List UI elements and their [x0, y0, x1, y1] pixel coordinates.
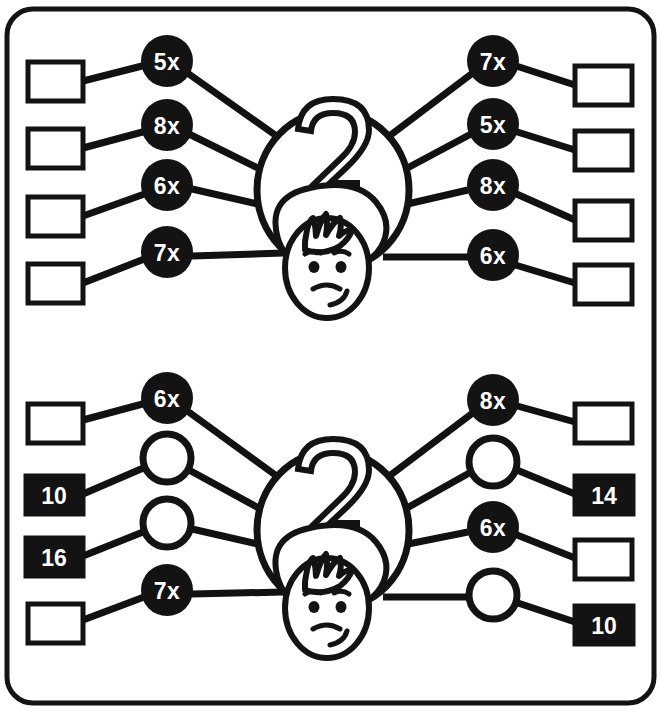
character-eye-left-bottom [309, 601, 320, 613]
connector-center-node-bottom-right-3 [403, 532, 468, 545]
node-label: 7x [154, 240, 181, 266]
connector-center-node-top-right-1 [388, 72, 474, 137]
center-figure-top: 2 [257, 99, 409, 318]
connector-box-node-bottom-left-4 [83, 594, 152, 620]
node-circle[interactable] [143, 434, 191, 482]
connector-node-center-top-left-4 [192, 253, 283, 256]
answer-box-value: 10 [591, 613, 617, 639]
answer-box-bottom-left-2[interactable]: 10 [26, 476, 83, 514]
answer-box-rect[interactable] [28, 604, 83, 643]
node-top-right-4[interactable]: 6x [467, 229, 519, 281]
character-eye-right-top [336, 261, 347, 273]
answer-box-value: 14 [591, 483, 617, 509]
center-figure-bottom: 2 [257, 439, 409, 658]
node-bottom-left-4[interactable]: 7x [141, 564, 193, 616]
answer-box-top-left-3[interactable] [28, 197, 83, 236]
node-top-right-2[interactable]: 5x [467, 98, 519, 150]
answer-box-value: 10 [41, 483, 67, 509]
node-bottom-left-2[interactable] [143, 434, 191, 482]
connector-node-center-bottom-left-2 [189, 470, 266, 512]
node-label: 7x [154, 578, 181, 604]
section-top: 2 5x 8x [28, 35, 632, 318]
answer-box-rect[interactable] [28, 404, 83, 443]
answer-box-rect[interactable] [575, 540, 632, 579]
node-top-right-3[interactable]: 8x [467, 159, 519, 211]
node-circle[interactable] [143, 499, 191, 547]
connector-node-center-bottom-left-4 [192, 592, 283, 594]
character-eyebrow-right-top [334, 251, 349, 254]
node-bottom-left-3[interactable] [143, 499, 191, 547]
connector-node-box-top-right-3 [512, 192, 575, 220]
connector-node-center-bottom-left-1 [186, 410, 278, 477]
node-bottom-right-1[interactable]: 8x [467, 374, 519, 426]
answer-box-rect[interactable] [575, 66, 632, 105]
answer-box-top-left-4[interactable] [28, 264, 83, 303]
node-circle[interactable] [469, 438, 517, 486]
connector-node-box-bottom-right-1 [510, 404, 575, 422]
connector-node-box-bottom-right-3 [512, 533, 575, 558]
connector-node-box-top-right-1 [510, 64, 575, 85]
node-top-right-1[interactable]: 7x [467, 35, 519, 87]
connector-node-box-top-right-2 [511, 130, 575, 150]
character-eyebrow-right-bottom [334, 591, 349, 594]
answer-box-rect[interactable] [575, 404, 632, 443]
character-eyebrow-left-top [305, 251, 321, 254]
node-label: 5x [154, 49, 181, 75]
node-top-left-4[interactable]: 7x [141, 226, 193, 278]
answer-box-rect[interactable] [575, 131, 632, 170]
connector-center-node-top-right-3 [403, 190, 468, 205]
connector-box-node-bottom-left-1 [83, 402, 150, 420]
connector-center-node-bottom-right-1 [388, 412, 474, 477]
worksheet-canvas: 2 5x 8x [0, 0, 661, 712]
connector-node-box-bottom-right-4 [512, 601, 575, 622]
node-top-left-3[interactable]: 6x [141, 159, 193, 211]
node-bottom-left-1[interactable]: 6x [141, 372, 193, 424]
node-top-left-2[interactable]: 8x [141, 99, 193, 151]
answer-box-top-right-3[interactable] [575, 201, 632, 240]
answer-box-rect[interactable] [575, 265, 632, 304]
answer-box-bottom-left-3[interactable]: 16 [26, 538, 83, 576]
connector-box-node-bottom-left-3 [83, 530, 148, 556]
node-label: 8x [480, 388, 507, 414]
answer-box-top-right-2[interactable] [575, 131, 632, 170]
node-circle[interactable] [469, 571, 517, 619]
answer-box-value: 16 [41, 545, 67, 571]
answer-box-rect[interactable] [575, 201, 632, 240]
connector-box-node-top-left-4 [83, 256, 152, 283]
node-label: 6x [154, 173, 181, 199]
node-bottom-right-3[interactable]: 6x [467, 501, 519, 553]
answer-box-bottom-left-4[interactable] [28, 604, 83, 643]
answer-box-top-right-1[interactable] [575, 66, 632, 105]
section-bottom: 2 6x [26, 372, 633, 658]
character-eyebrow-left-bottom [305, 591, 321, 594]
answer-box-bottom-right-1[interactable] [575, 404, 632, 443]
connector-node-center-top-left-3 [192, 189, 262, 205]
answer-box-bottom-left-1[interactable] [28, 404, 83, 443]
node-top-left-1[interactable]: 5x [141, 35, 193, 87]
answer-box-top-left-2[interactable] [28, 129, 83, 168]
node-label: 6x [480, 515, 507, 541]
answer-box-bottom-right-3[interactable] [575, 540, 632, 579]
connector-box-node-top-left-3 [83, 192, 150, 216]
answer-box-bottom-right-4[interactable]: 10 [575, 606, 633, 644]
node-label: 6x [480, 243, 507, 269]
answer-box-rect[interactable] [28, 62, 83, 101]
character-eye-right-bottom [336, 601, 347, 613]
answer-box-rect[interactable] [28, 264, 83, 303]
character-eye-left-top [309, 261, 320, 273]
connector-node-center-top-left-2 [189, 134, 266, 172]
connector-node-box-top-right-4 [512, 264, 575, 283]
node-label: 6x [154, 386, 181, 412]
node-bottom-right-2[interactable] [469, 438, 517, 486]
node-bottom-right-4[interactable] [469, 571, 517, 619]
answer-box-top-right-4[interactable] [575, 265, 632, 304]
answer-box-bottom-right-2[interactable]: 14 [575, 476, 633, 514]
node-label: 8x [154, 113, 181, 139]
answer-box-rect[interactable] [28, 197, 83, 236]
connector-node-center-bottom-left-3 [192, 529, 262, 545]
answer-box-top-left-1[interactable] [28, 62, 83, 101]
answer-box-rect[interactable] [28, 129, 83, 168]
connector-node-center-top-left-1 [186, 72, 278, 137]
connector-box-node-top-left-1 [83, 64, 150, 81]
node-label: 8x [480, 173, 507, 199]
